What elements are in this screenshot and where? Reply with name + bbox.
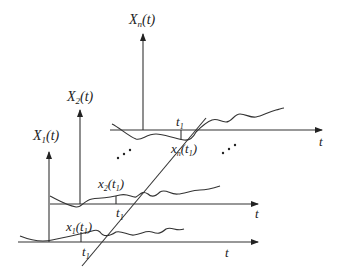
x1-sample-label: x1(t1) [65,219,92,236]
x1-sample-curve [20,228,184,241]
x2-plot [50,110,258,207]
xn-sample-curve-segment-2 [196,108,284,132]
random-process-ensemble-diagram: Xn(t) X2(t) X1(t) t t t t1 t1 t1 xn(t1) … [0,0,342,274]
xn-axis-label: Xn(t) [128,12,156,29]
ellipsis-right [222,144,236,154]
x2-time-label: t [255,206,259,221]
x2-sample-label: x2(t1) [97,176,124,193]
x2-axis-label: X2(t) [66,89,94,106]
x1-t1-label: t1 [82,244,90,261]
x1-plot [18,152,258,242]
xn-sample-label: xn(t1) [170,141,197,158]
x1-axis-label: X1(t) [32,128,60,145]
xn-t1-label: t1 [176,114,184,131]
x1-time-label: t [225,245,229,260]
x2-t1-label: t1 [116,205,124,222]
xn-plot [110,34,322,140]
ellipsis-left [117,149,131,159]
xn-time-label: t [319,134,323,149]
